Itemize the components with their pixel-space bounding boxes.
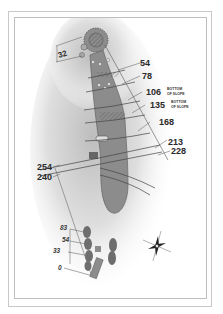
yardage-135: 135 xyxy=(150,100,165,110)
yardage-240: 240 xyxy=(37,172,52,182)
tee-marker-33: 33 xyxy=(53,247,61,254)
yardage-168: 168 xyxy=(159,117,174,127)
tee-marker-83: 83 xyxy=(60,224,68,231)
yardage-106: 106 xyxy=(146,87,161,97)
tee-marker-0: 0 xyxy=(58,264,62,271)
tee-marker-54: 54 xyxy=(62,236,70,243)
building-2 xyxy=(95,246,101,252)
yardage-106-note2: OF SLOPE xyxy=(167,92,185,96)
yardage-135-note1: BOTTOM xyxy=(171,100,186,104)
hole-diagram: 32 54 78 106 BOTTOM OF SLOPE 135 BOTTOM … xyxy=(0,0,223,314)
yardage-106-note1: BOTTOM xyxy=(167,87,182,91)
yardage-254: 254 xyxy=(37,162,52,172)
yardage-228: 228 xyxy=(171,146,186,156)
building xyxy=(89,152,98,159)
slope-area-1 xyxy=(97,72,119,77)
yardage-135-note2: OF SLOPE xyxy=(171,105,189,109)
yardage-78: 78 xyxy=(142,71,152,81)
yardage-54: 54 xyxy=(140,58,150,68)
